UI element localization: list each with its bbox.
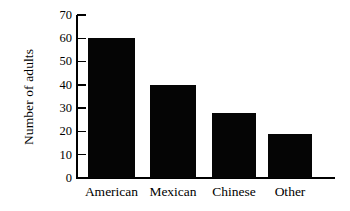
y-tick-label: 10 bbox=[46, 149, 72, 162]
y-tick-label: 50 bbox=[46, 55, 72, 68]
y-tick-mark bbox=[77, 107, 86, 108]
y-tick-label: 20 bbox=[46, 125, 72, 138]
bar bbox=[268, 134, 312, 178]
y-tick-mark bbox=[77, 38, 86, 39]
bar bbox=[88, 38, 135, 178]
y-tick-label: 40 bbox=[46, 79, 72, 92]
y-tick-label: 70 bbox=[46, 9, 72, 22]
bar-chart: Number of adults 010203040506070 America… bbox=[0, 0, 350, 211]
y-tick-mark bbox=[77, 61, 86, 62]
y-tick-mark bbox=[77, 177, 86, 178]
y-tick-mark bbox=[77, 14, 86, 15]
y-tick-mark bbox=[77, 84, 86, 85]
y-tick-label: 60 bbox=[46, 32, 72, 45]
y-tick-mark bbox=[77, 131, 86, 132]
y-axis-title: Number of adults bbox=[14, 2, 44, 192]
y-tick-mark bbox=[77, 154, 86, 155]
y-tick-label: 30 bbox=[46, 102, 72, 115]
y-tick-label: 0 bbox=[46, 172, 72, 185]
x-tick-label: Other bbox=[245, 184, 335, 200]
bar bbox=[212, 113, 256, 178]
bar bbox=[150, 85, 196, 178]
